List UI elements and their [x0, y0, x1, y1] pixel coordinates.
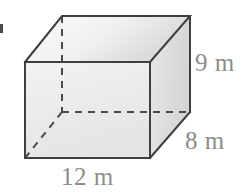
- height-dimension-label: 9 m: [195, 50, 235, 75]
- width-dimension-label: 12 m: [61, 164, 114, 189]
- depth-dimension-label: 8 m: [185, 128, 225, 153]
- prism-front-face: [25, 62, 150, 158]
- rectangular-prism-figure: 9 m 8 m 12 m: [0, 0, 244, 192]
- prism-drawing: [0, 0, 244, 192]
